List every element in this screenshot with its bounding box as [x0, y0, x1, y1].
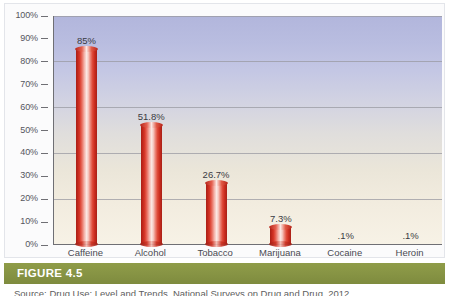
y-axis-tick-label: 100% — [15, 11, 38, 20]
y-axis-tick-label: 70% — [20, 80, 38, 89]
bar-caffeine — [76, 48, 97, 244]
y-axis-tick — [41, 245, 48, 246]
y-axis-tick — [41, 38, 48, 39]
y-axis-tick-label: 60% — [20, 103, 38, 112]
y-axis-tick — [41, 16, 48, 17]
bar-tobacco — [206, 182, 227, 244]
x-axis-label-caffeine: Caffeine — [53, 247, 118, 258]
gridline — [54, 16, 442, 17]
y-axis-tick-label: 20% — [20, 194, 38, 203]
bar-alcohol — [141, 124, 162, 244]
y-axis-tick-label: 40% — [20, 148, 38, 157]
x-axis-label-cocaine: Cocaine — [312, 247, 377, 258]
plot-area: 85%51.8%26.7%7.3%.1%.1% — [53, 16, 442, 245]
figure-container: 0%10%20%30%40%50%60%70%80%90%100% 85%51.… — [0, 0, 451, 296]
gridline — [54, 199, 442, 200]
x-axis-label-heroin: Heroin — [377, 247, 442, 258]
y-axis-tick-label: 50% — [20, 126, 38, 135]
y-axis-tick — [41, 130, 48, 131]
x-axis-label-alcohol: Alcohol — [118, 247, 183, 258]
y-axis-tick-label: 30% — [20, 171, 38, 180]
bar-value-label: 26.7% — [190, 170, 242, 180]
bar-value-label: 51.8% — [125, 112, 177, 122]
x-axis-label-marijuana: Marijuana — [248, 247, 313, 258]
x-axis-label-tobacco: Tobacco — [183, 247, 248, 258]
figure-number-label: FIGURE 4.5 — [17, 267, 83, 279]
y-axis-tick-label: 80% — [20, 57, 38, 66]
gridline — [54, 107, 442, 108]
bar-value-label: .1% — [320, 231, 372, 241]
figure-source-line: Source: Drug Use: Level and Trends, Nati… — [14, 288, 444, 296]
y-axis-tick — [41, 176, 48, 177]
bar-value-label: 85% — [60, 36, 112, 46]
y-axis-tick — [41, 107, 48, 108]
gridline — [54, 61, 442, 62]
y-axis-tick-label: 90% — [20, 34, 38, 43]
y-axis-tick — [41, 84, 48, 85]
y-axis-tick — [41, 153, 48, 154]
y-axis-tick — [41, 199, 48, 200]
bar-value-label: .1% — [385, 231, 437, 241]
bar-marijuana — [270, 226, 291, 244]
gridline — [54, 153, 442, 154]
y-axis: 0%10%20%30%40%50%60%70%80%90%100% — [5, 16, 48, 245]
y-axis-tick — [41, 222, 48, 223]
plot-inner: 85%51.8%26.7%7.3%.1%.1% — [54, 16, 442, 244]
y-axis-tick — [41, 61, 48, 62]
x-axis: CaffeineAlcoholTobaccoMarijuanaCocaineHe… — [53, 247, 442, 261]
y-axis-tick-label: 0% — [25, 240, 38, 249]
bar-value-label: 7.3% — [255, 214, 307, 224]
chart-frame: 0%10%20%30%40%50%60%70%80%90%100% 85%51.… — [4, 3, 445, 258]
figure-caption-banner: FIGURE 4.5 — [4, 263, 445, 284]
y-axis-tick-label: 10% — [20, 217, 38, 226]
